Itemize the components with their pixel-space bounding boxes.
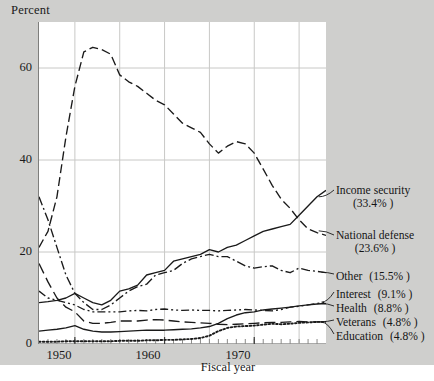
chart-figure: Percent 0 20 40 60 1950 1960 1970 Fiscal… <box>0 0 434 381</box>
legend-item-education: Education (4.8% ) <box>336 330 425 343</box>
plot-svg <box>39 22 326 344</box>
legend-label-other: Other <box>336 270 362 283</box>
y-tick-label-20: 20 <box>6 244 32 259</box>
legend-item-other: Other (15.5% ) <box>336 270 410 283</box>
legend-percent-interest: (9.1% ) <box>378 288 413 301</box>
legend-label-income-security: Income security <box>336 184 410 197</box>
x-tick-label-1950: 1950 <box>36 348 82 363</box>
series-line-other <box>39 197 326 310</box>
legend-item-income-security: Income security (33.4% ) <box>336 184 410 210</box>
legend-percent-income-security: (33.4% ) <box>336 197 410 210</box>
legend-percent-education: (4.8% ) <box>390 330 425 343</box>
y-tick-label-40: 40 <box>6 152 32 167</box>
y-tick-label-0: 0 <box>6 336 32 351</box>
plot-panel <box>38 22 326 344</box>
x-tick-label-1960: 1960 <box>125 348 171 363</box>
legend-percent-other: (15.5% ) <box>369 270 410 283</box>
legend-percent-health: (8.8% ) <box>374 302 409 315</box>
legend-percent-national-defense: (23.6% ) <box>336 242 414 255</box>
legend-percent-veterans: (4.8% ) <box>383 316 418 329</box>
series-line-national-defense <box>39 47 326 247</box>
y-tick-label-60: 60 <box>6 60 32 75</box>
legend-item-health: Health (8.8% ) <box>336 302 409 315</box>
legend-label-health: Health <box>336 302 367 315</box>
series-line-veterans <box>39 264 326 325</box>
legend-item-veterans: Veterans (4.8% ) <box>336 316 418 329</box>
legend-label-interest: Interest <box>336 288 371 301</box>
y-axis-title: Percent <box>11 3 50 18</box>
legend-item-national-defense: National defense (23.6% ) <box>336 229 414 255</box>
series-line-education <box>39 322 326 342</box>
legend-label-national-defense: National defense <box>336 229 414 242</box>
series-line-health <box>39 304 326 333</box>
series-line-income-security <box>39 190 326 305</box>
legend-label-veterans: Veterans <box>336 316 376 329</box>
x-axis-title: Fiscal year <box>168 360 288 375</box>
series-line-interest <box>39 291 326 312</box>
legend-label-education: Education <box>336 330 383 343</box>
legend-item-interest: Interest (9.1% ) <box>336 288 412 301</box>
